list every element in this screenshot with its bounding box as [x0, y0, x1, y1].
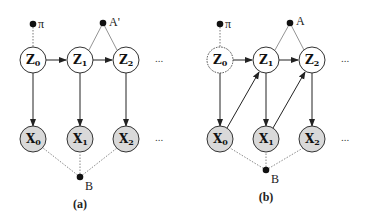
node-x1: X1: [67, 126, 93, 152]
emission-param-dot: [77, 174, 84, 181]
a-link-z1: [275, 23, 290, 50]
transition-param-dot: [287, 20, 294, 27]
panel-a: π A' B Z0 Z1 Z2 ... X0 X1 X2: [20, 15, 164, 211]
b-link-x0: [43, 148, 80, 177]
b-link-x2: [80, 148, 117, 177]
pi-param-dot: [30, 21, 37, 28]
continuation-z: ...: [341, 52, 350, 64]
node-x0: X0: [20, 126, 46, 152]
emission-param-dot: [263, 167, 270, 174]
node-x2: X2: [113, 126, 139, 152]
transition-label: A': [109, 15, 120, 29]
panel-b: π A B Z0 Z1 Z2 ... X0 X1 X2 ...: [207, 14, 350, 204]
diagram-canvas: π A' B Z0 Z1 Z2 ... X0 X1 X2: [0, 0, 367, 216]
pi-param-dot: [217, 21, 224, 28]
a-link-z1: [89, 23, 103, 50]
node-z0: Z0: [207, 47, 233, 73]
edge-x0-z1: [227, 72, 259, 128]
node-z0: Z0: [20, 47, 46, 73]
edge-x1-z2: [273, 72, 305, 128]
node-z1: Z1: [67, 47, 93, 73]
transition-param-dot: [100, 20, 107, 27]
node-x2: X2: [299, 126, 325, 152]
emission-label: B: [271, 172, 279, 186]
node-z2: Z2: [299, 47, 325, 73]
continuation-x: ...: [341, 131, 350, 143]
caption-a: (a): [73, 197, 87, 211]
node-x1: X1: [253, 126, 279, 152]
node-z1: Z1: [253, 47, 279, 73]
continuation-z: ...: [155, 52, 164, 64]
pi-label: π: [225, 17, 231, 31]
pi-label: π: [38, 17, 44, 31]
node-x0: X0: [207, 126, 233, 152]
continuation-x: ...: [155, 131, 164, 143]
caption-b: (b): [259, 190, 274, 204]
emission-label: B: [85, 179, 93, 193]
node-z2: Z2: [113, 47, 139, 73]
transition-label: A: [296, 14, 305, 28]
